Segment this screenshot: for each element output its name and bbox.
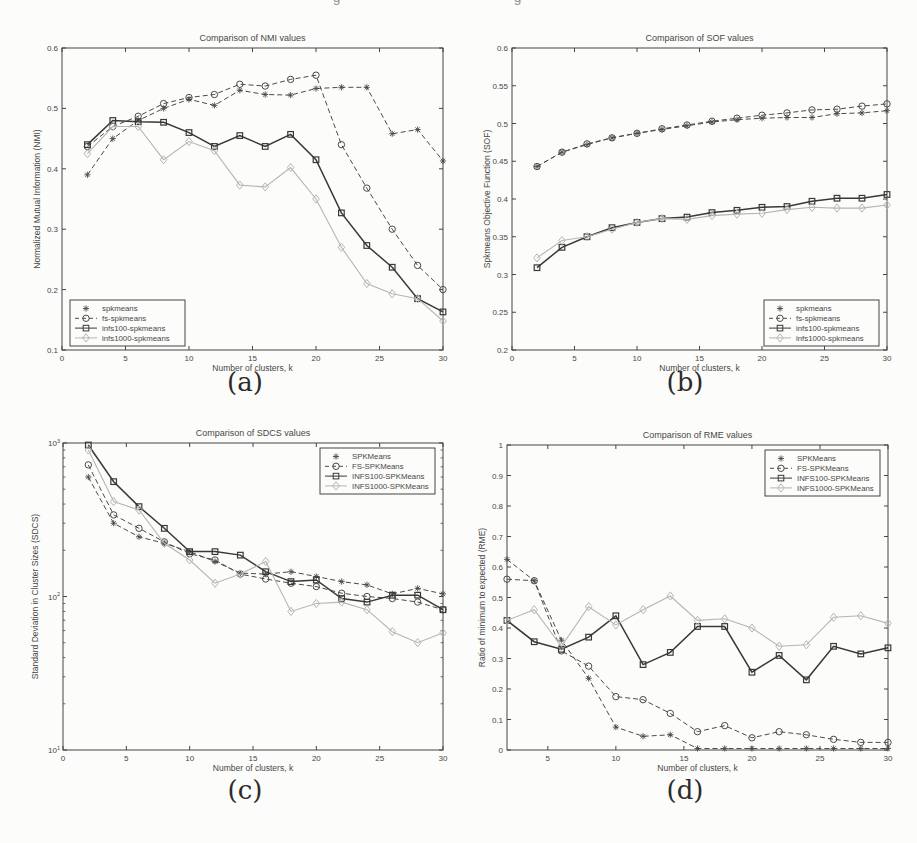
star-marker	[339, 579, 345, 585]
star-marker	[85, 474, 91, 480]
star-marker	[83, 305, 89, 311]
legend-label: spkmeans	[796, 304, 832, 313]
y-tick-label: 102	[48, 591, 60, 602]
chart-title: Comparison of NMI values	[199, 33, 306, 43]
x-tick-label: 0	[61, 754, 66, 763]
cut-off-text-fragment: g	[333, 0, 343, 7]
y-tick-label: 0.55	[492, 82, 508, 91]
star-marker	[313, 573, 319, 579]
circle-marker	[338, 141, 344, 147]
legend: spkmeansfs-spkmeansinfs100-spkmeansinfs1…	[70, 300, 185, 346]
y-tick-label: 0.45	[492, 157, 508, 166]
star-marker	[136, 534, 142, 540]
legend-label: INFS100-SPKMeans	[352, 472, 424, 481]
series-FS-SPKMeans	[504, 576, 891, 746]
y-tick-label: 103	[48, 438, 60, 449]
y-tick-label: 1	[499, 441, 504, 450]
legend-label: SPKMeans	[352, 452, 391, 461]
series-infs1000-spkmeans	[84, 122, 446, 325]
y-axis-label: Normalized Mutual Information (NMI)	[32, 129, 42, 269]
legend-label: infs1000-spkmeans	[796, 334, 864, 343]
star-marker	[237, 87, 243, 93]
legend-label: SPKMeans	[797, 454, 836, 463]
legend-label: FS-SPKMeans	[797, 464, 849, 473]
legend-label: fs-spkmeans	[796, 314, 840, 323]
legend: SPKMeansFS-SPKMeansINFS100-SPKMeansINFS1…	[765, 450, 880, 496]
y-tick-label: 0.5	[47, 104, 59, 113]
subplot-b: Comparison of SOF values0510152025300.20…	[460, 25, 910, 379]
series-spkmeans	[534, 108, 890, 170]
x-tick-label: 30	[884, 754, 893, 763]
x-tick-label: 20	[758, 354, 767, 363]
chart-a: Comparison of NMI values0510152025300.10…	[30, 25, 460, 375]
star-marker	[111, 520, 117, 526]
y-axis-label: Spkmeans Objective Function (SOF)	[482, 130, 492, 269]
star-marker	[288, 92, 294, 98]
x-tick-label: 0	[60, 354, 65, 363]
star-marker	[778, 455, 784, 461]
chart-title: Comparison of SOF values	[645, 33, 754, 43]
x-tick-label: 10	[611, 754, 620, 763]
caption-d: (d)	[460, 775, 910, 805]
star-marker	[803, 745, 809, 751]
y-tick-label: 0.8	[492, 502, 504, 511]
legend-label: infs100-spkmeans	[102, 324, 165, 333]
star-marker	[333, 453, 339, 459]
y-tick-label: 101	[48, 745, 60, 756]
star-marker	[885, 745, 891, 751]
star-marker	[640, 733, 646, 739]
y-tick-label: 0.1	[492, 716, 504, 725]
star-marker	[504, 556, 510, 562]
star-marker	[722, 745, 728, 751]
subplot-c: Comparison of SDCS values051015202530101…	[30, 428, 460, 792]
y-tick-label: 0.5	[497, 120, 509, 129]
subplot-d: Comparison of RME values5101520253000.10…	[460, 428, 910, 792]
y-tick-label: 0	[499, 746, 504, 755]
x-tick-label: 25	[820, 354, 829, 363]
star-marker	[858, 745, 864, 751]
x-tick-label: 25	[375, 354, 384, 363]
star-marker	[364, 84, 370, 90]
star-marker	[338, 84, 344, 90]
series-infs100-spkmeans	[85, 118, 446, 315]
legend: SPKMeansFS-SPKMeansINFS100-SPKMeansINFS1…	[320, 448, 435, 494]
circle-marker	[585, 663, 591, 669]
x-tick-label: 10	[633, 354, 642, 363]
series-line	[507, 596, 888, 646]
x-tick-label: 30	[883, 354, 892, 363]
caption-a: (a)	[30, 367, 460, 397]
x-tick-label: 15	[679, 754, 688, 763]
y-tick-label: 0.6	[47, 44, 59, 53]
series-line	[507, 559, 888, 748]
star-marker	[440, 158, 446, 164]
x-tick-label: 5	[123, 354, 128, 363]
y-tick-label: 0.2	[497, 346, 509, 355]
star-marker	[586, 675, 592, 681]
chart-title: Comparison of RME values	[643, 430, 753, 440]
y-tick-label: 0.25	[492, 308, 508, 317]
y-tick-label: 0.1	[47, 346, 59, 355]
y-tick-label: 0.7	[492, 533, 504, 542]
x-tick-label: 20	[312, 354, 321, 363]
x-tick-label: 5	[124, 754, 129, 763]
star-marker	[749, 745, 755, 751]
y-axis-label: Ratio of minimum to expected (RME)	[477, 528, 487, 668]
x-tick-label: 20	[747, 754, 756, 763]
star-marker	[776, 745, 782, 751]
chart-title: Comparison of SDCS values	[196, 428, 311, 438]
caption-c: (c)	[30, 775, 460, 805]
x-tick-label: 15	[249, 754, 258, 763]
legend-label: INFS1000-SPKMeans	[797, 484, 874, 493]
cut-off-text-fragment: g	[514, 0, 524, 7]
star-marker	[694, 745, 700, 751]
y-tick-label: 0.3	[492, 655, 504, 664]
star-marker	[613, 724, 619, 730]
y-tick-label: 0.4	[497, 195, 509, 204]
y-tick-label: 0.3	[47, 225, 59, 234]
series-infs100-spkmeans	[534, 192, 890, 271]
x-tick-label: 25	[816, 754, 825, 763]
series-line	[87, 127, 443, 322]
star-marker	[288, 569, 294, 575]
legend-label: INFS1000-SPKMeans	[352, 482, 429, 491]
chart-c: Comparison of SDCS values051015202530101…	[30, 428, 460, 788]
